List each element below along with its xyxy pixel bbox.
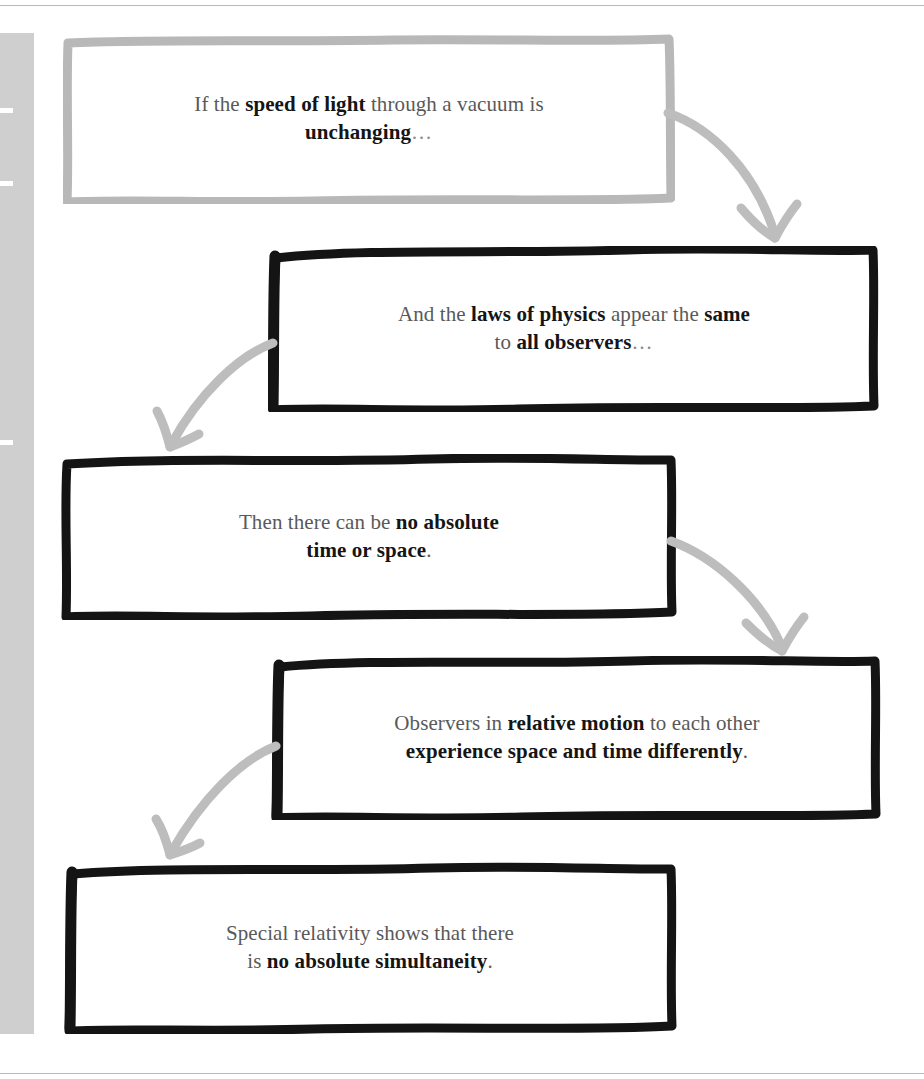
node-1-line2-bold: unchanging xyxy=(305,120,411,144)
node-2-text: And the laws of physics appear the same … xyxy=(372,301,776,357)
arrow-node4-to-node5 xyxy=(156,746,276,855)
node-3-text: Then there can be no absolute time or sp… xyxy=(213,509,525,565)
page-rule-bottom xyxy=(0,1073,924,1074)
node-4-line1-bold: relative motion xyxy=(508,711,645,735)
page-rule-top xyxy=(0,5,924,6)
node-2-line2-post: … xyxy=(631,330,653,354)
node-1-line2-post: … xyxy=(411,120,433,144)
diagram-page: If the speed of light through a vacuum i… xyxy=(0,0,924,1079)
flow-node-3[interactable]: Then there can be no absolute time or sp… xyxy=(61,454,677,620)
flow-node-5[interactable]: Special relativity shows that there is n… xyxy=(63,862,677,1034)
node-1-text: If the speed of light through a vacuum i… xyxy=(168,91,569,147)
gutter-notch xyxy=(0,181,13,186)
node-3-line2-bold: time or space xyxy=(306,538,426,562)
gutter-notch xyxy=(0,440,13,445)
node-3-line2-post: . xyxy=(426,538,431,562)
node-1-line1-bold: speed of light xyxy=(245,92,365,116)
gutter-notch xyxy=(0,108,13,113)
node-4-line2-post: . xyxy=(743,739,748,763)
node-5-line2-post: . xyxy=(487,949,492,973)
arrow-node2-to-node3 xyxy=(157,343,273,447)
node-2-line1-bold: laws of physics xyxy=(471,302,606,326)
arrow-node1-to-node2 xyxy=(668,113,797,238)
node-3-line1-pre: Then there can be xyxy=(239,510,396,534)
node-5-line2-bold: no absolute simultaneity xyxy=(267,949,488,973)
node-5-line2-pre: is xyxy=(247,949,267,973)
node-4-line1-pre: Observers in xyxy=(394,711,507,735)
page-gutter-bar xyxy=(0,33,34,1034)
node-2-line1-pre: And the xyxy=(398,302,471,326)
node-5-line1-pre: Special relativity shows that there xyxy=(226,921,514,945)
node-2-line2-pre: to xyxy=(495,330,517,354)
node-4-line1-post: to each other xyxy=(645,711,760,735)
flow-node-4[interactable]: Observers in relative motion to each oth… xyxy=(271,656,883,820)
node-1-line1-pre: If the xyxy=(194,92,245,116)
node-3-line1-bold: no absolute xyxy=(396,510,499,534)
node-2-line2-bold: all observers xyxy=(516,330,631,354)
arrow-node3-to-node4 xyxy=(671,541,804,651)
flow-node-2[interactable]: And the laws of physics appear the same … xyxy=(268,246,880,412)
node-5-text: Special relativity shows that there is n… xyxy=(200,920,540,976)
node-4-text: Observers in relative motion to each oth… xyxy=(368,710,785,766)
node-2-line1-bold2: same xyxy=(704,302,750,326)
node-4-line2-bold: experience space and time differently xyxy=(406,739,743,763)
node-1-line1-post: through a vacuum is xyxy=(366,92,544,116)
flow-node-1[interactable]: If the speed of light through a vacuum i… xyxy=(63,34,675,204)
node-2-line1-post: appear the xyxy=(606,302,705,326)
